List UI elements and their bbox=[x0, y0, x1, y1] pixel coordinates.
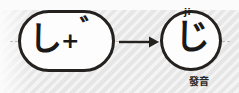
arrow-right-icon bbox=[119, 35, 160, 49]
result-kana-ji: じ bbox=[175, 20, 210, 55]
plus-operator: + bbox=[61, 30, 79, 52]
dakuten-mark: ゛ bbox=[80, 16, 106, 43]
pronunciation-caption: 發音 bbox=[179, 73, 219, 88]
base-kana-shi: し bbox=[29, 22, 62, 55]
diagram-canvas: し + ゛ ji じ 發音 bbox=[0, 0, 239, 93]
romaji-label: ji bbox=[184, 8, 191, 17]
top-white-band bbox=[0, 0, 239, 10]
transform-arrow bbox=[119, 34, 160, 48]
